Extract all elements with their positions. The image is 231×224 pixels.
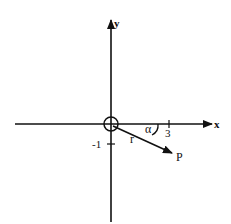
x-tick-label: 3 (165, 127, 171, 139)
vector-label-r: r (130, 132, 134, 146)
y-axis-label: y (114, 17, 120, 29)
vector-r (113, 126, 172, 153)
angle-arc (152, 124, 158, 135)
point-label-p: P (176, 150, 183, 164)
y-tick-label: -1 (92, 138, 101, 150)
angle-label-alpha: α (145, 122, 152, 136)
coordinate-diagram: y x 3 -1 r α P (0, 0, 231, 224)
x-axis-label: x (214, 118, 220, 130)
